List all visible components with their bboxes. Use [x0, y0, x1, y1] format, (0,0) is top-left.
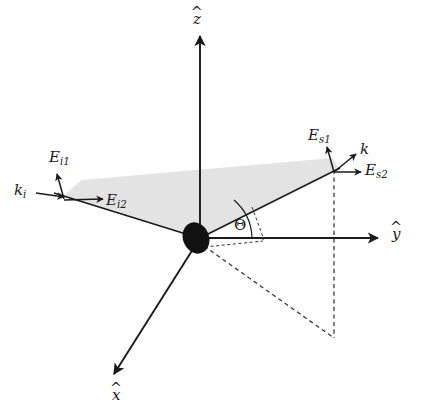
axis-label-y: ^y [392, 227, 400, 242]
angle-label-theta: Θ [234, 218, 246, 233]
vector-label-E-i1: Ei1 [49, 150, 70, 167]
vector-label-E-i1-sub: i1 [60, 156, 70, 167]
vector-label-E-s2-sub: s2 [376, 169, 388, 180]
vector-label-E-s2: Es2 [365, 163, 388, 180]
vector-label-E-i2: Ei2 [106, 193, 127, 210]
scattering-geometry-figure: ^z ^y ^x ki Ei1 Ei2 Es1 k Es2 Θ [0, 0, 427, 414]
vector-E-i2 [64, 199, 103, 200]
vector-k [334, 154, 356, 172]
vector-label-k-i: ki [14, 183, 26, 200]
axis-label-x: ^x [112, 388, 120, 403]
vector-label-E-i1-base: E [49, 148, 60, 166]
axis-label-z: ^z [193, 12, 201, 27]
axis-x [114, 238, 200, 374]
vector-label-k-i-sub: i [23, 189, 26, 200]
y-hat-accent: ^ [390, 220, 402, 234]
vector-label-E-s1: Es1 [308, 128, 331, 145]
diagram-canvas [0, 0, 427, 414]
x-hat-accent: ^ [110, 381, 122, 395]
angle-tick-lower [205, 241, 263, 247]
vector-label-E-s2-base: E [365, 161, 376, 179]
vector-label-k-base: k [360, 140, 369, 158]
z-hat-accent: ^ [191, 5, 203, 19]
vector-label-E-s1-sub: s1 [319, 134, 331, 145]
projection-diagonal-dashed-line [204, 246, 334, 338]
vector-label-k: k [360, 142, 369, 159]
vector-label-k-i-base: k [14, 181, 23, 199]
vector-label-E-s1-base: E [308, 126, 319, 144]
vector-label-E-i2-base: E [106, 191, 117, 209]
vector-label-E-i2-sub: i2 [117, 199, 127, 210]
